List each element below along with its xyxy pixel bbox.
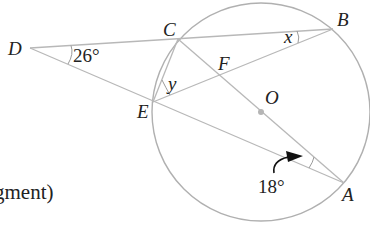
label-f: F [217,53,230,74]
angle-arc-a [309,157,314,168]
angle-label-y: y [166,73,177,94]
label-o: O [265,87,279,108]
segment-d-a [30,48,344,183]
geometry-diagram: D C B E F O A 26° x y 18° [0,0,370,227]
center-point-o [258,109,264,115]
label-c: C [163,19,176,40]
angle-label-x: x [283,26,293,47]
label-d: D [7,38,22,59]
label-e: E [136,101,149,122]
label-b: B [337,9,349,30]
angle-arc-b [297,31,299,43]
angle-arc-d [68,46,72,65]
angle-label-18: 18° [258,176,285,197]
arrowhead-icon [286,151,303,162]
partial-text: gment) [0,180,53,205]
angle-label-d: 26° [73,45,100,66]
arrow-icon [274,157,288,173]
label-a: A [340,184,354,205]
